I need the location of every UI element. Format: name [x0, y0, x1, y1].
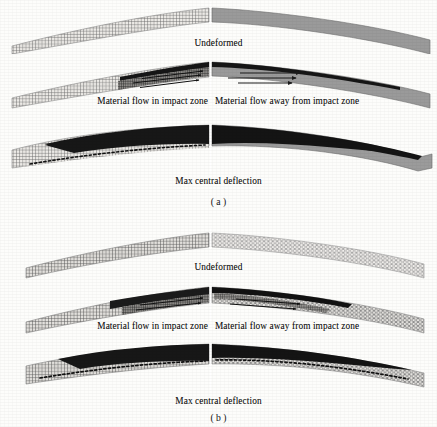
panel-label-b: ( b )	[0, 412, 437, 423]
beam-undeformed-b	[0, 228, 437, 280]
panel-a-row-deflection: Max central deflection	[0, 124, 437, 186]
caption-max-deflection-a: Max central deflection	[0, 176, 437, 186]
panel-b-row-undeformed: Undeformed	[0, 228, 437, 280]
panel-b-row-deflection: Max central deflection	[0, 342, 437, 404]
panel-b: Undeformed Material flow in im	[0, 214, 437, 427]
center-divider-b3	[210, 342, 211, 390]
figure-root: Undeformed	[0, 0, 437, 427]
panel-a: Undeformed	[0, 0, 437, 215]
caption-flow-in-a: Material flow in impact zone	[0, 96, 212, 106]
caption-undeformed-a: Undeformed	[0, 38, 437, 48]
center-divider-a2	[210, 60, 211, 98]
caption-flow-away-b: Material flow away from impact zone	[213, 321, 437, 331]
panel-label-a: ( a )	[0, 196, 437, 207]
center-divider-b1	[210, 228, 211, 250]
beam-deflection-b	[0, 342, 437, 404]
center-divider-b2	[210, 286, 211, 322]
caption-flow-away-a: Material flow away from impact zone	[213, 96, 437, 106]
caption-max-deflection-b: Max central deflection	[0, 396, 437, 406]
caption-undeformed-b: Undeformed	[0, 262, 437, 272]
center-divider-a1	[210, 2, 211, 26]
panel-b-row-flow: Material flow in impact zone Material fl…	[0, 286, 437, 338]
panel-a-row-flow: Material flow in impact zone Material fl…	[0, 60, 437, 112]
center-divider-a3	[210, 124, 211, 172]
caption-flow-in-b: Material flow in impact zone	[0, 321, 212, 331]
panel-a-row-undeformed: Undeformed	[0, 2, 437, 54]
